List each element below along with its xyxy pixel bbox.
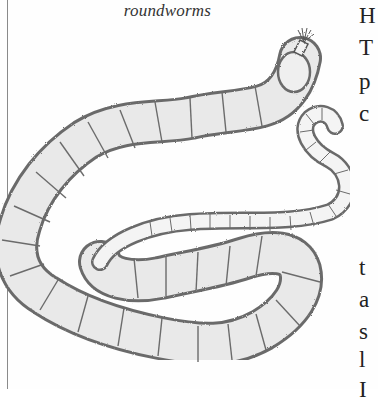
- text-fragment: s: [359, 320, 368, 343]
- text-fragment: c: [359, 102, 369, 125]
- text-fragment: H: [359, 4, 376, 27]
- figure-caption: roundworms: [0, 1, 335, 21]
- text-fragment: T: [359, 36, 373, 59]
- text-fragment: l: [359, 348, 365, 371]
- worm-body: [16, 28, 347, 344]
- text-fragment: p: [359, 70, 371, 93]
- text-fragment: t: [359, 256, 365, 279]
- text-fragment: a: [359, 288, 369, 311]
- text-fragment: I: [359, 378, 367, 401]
- roundworm-illustration: [0, 25, 350, 389]
- adjacent-text-column: H T p c t a s l I: [359, 0, 378, 389]
